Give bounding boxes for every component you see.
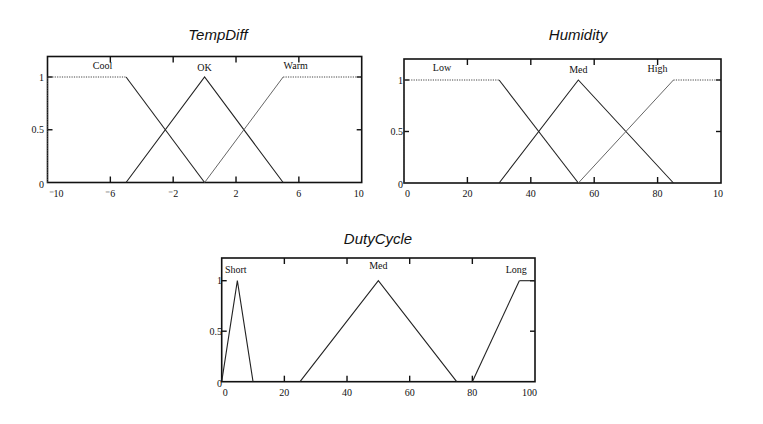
y-tick-label: 0.5 [391, 126, 404, 137]
plot-frame [222, 258, 535, 382]
x-tick-label: 6 [296, 188, 301, 199]
x-tick-label: ⁻6 [105, 188, 115, 199]
membership-label: OK [197, 62, 212, 73]
x-tick-label: 40 [342, 387, 352, 398]
x-tick-label: 0 [223, 387, 228, 398]
y-tick-label: 1 [39, 72, 44, 83]
y-tick-label: 0.5 [210, 326, 223, 337]
plot-frame [48, 57, 362, 183]
x-tick-label: ⁻2 [168, 188, 178, 199]
membership-cool: Cool [48, 60, 205, 183]
membership-med: Med [499, 64, 673, 183]
y-tick-label: 0 [398, 179, 403, 190]
x-tick-label: 20 [279, 387, 289, 398]
membership-low: Low [404, 62, 578, 183]
chart-dutycycle: DutyCycle02040608010000.51ShortMedLong [210, 230, 538, 398]
x-tick-label: 2 [234, 188, 239, 199]
chart-tempdiff: TempDiff⁻10⁻6⁻2261000.51CoolOKWarm [32, 26, 364, 199]
x-tick-label: 80 [467, 387, 477, 398]
y-tick-label: 1 [398, 75, 403, 86]
membership-label: Med [369, 260, 387, 271]
fuzzy-membership-figure: TempDiff⁻10⁻6⁻2261000.51CoolOKWarm Humid… [0, 0, 763, 424]
chart-humidity: Humidity0204060801000.51LowMedHigh [391, 26, 724, 199]
membership-high: High [578, 63, 721, 183]
membership-label: Long [506, 264, 527, 275]
chart-title: Humidity [549, 26, 609, 43]
y-tick-label: 0 [39, 179, 44, 190]
membership-label: Cool [93, 60, 113, 71]
x-tick-label: 80 [653, 188, 663, 199]
x-tick-label: 10 [354, 188, 364, 199]
membership-short: Short [222, 264, 253, 382]
chart-title: TempDiff [188, 26, 249, 43]
plot-frame [404, 59, 721, 183]
y-tick-label: 0.5 [32, 124, 45, 135]
membership-label: Warm [284, 60, 308, 71]
x-tick-label: 40 [526, 188, 536, 199]
x-tick-label: 100 [522, 387, 537, 398]
membership-label: Med [569, 64, 587, 75]
x-tick-label: 60 [405, 387, 415, 398]
membership-label: Short [225, 264, 247, 275]
x-tick-label: ⁻10 [49, 188, 64, 199]
y-tick-label: 1 [217, 275, 222, 286]
membership-ok: OK [126, 62, 283, 183]
y-tick-label: 0 [217, 378, 222, 389]
membership-warm: Warm [205, 60, 362, 183]
membership-long: Long [472, 264, 535, 382]
x-tick-label: 0 [405, 188, 410, 199]
x-tick-label: 60 [589, 188, 599, 199]
x-tick-label: 10 [713, 188, 723, 199]
membership-med: Med [300, 260, 457, 382]
membership-label: High [648, 63, 668, 74]
x-tick-label: 20 [462, 188, 472, 199]
chart-title: DutyCycle [344, 230, 412, 247]
membership-label: Low [433, 62, 452, 73]
